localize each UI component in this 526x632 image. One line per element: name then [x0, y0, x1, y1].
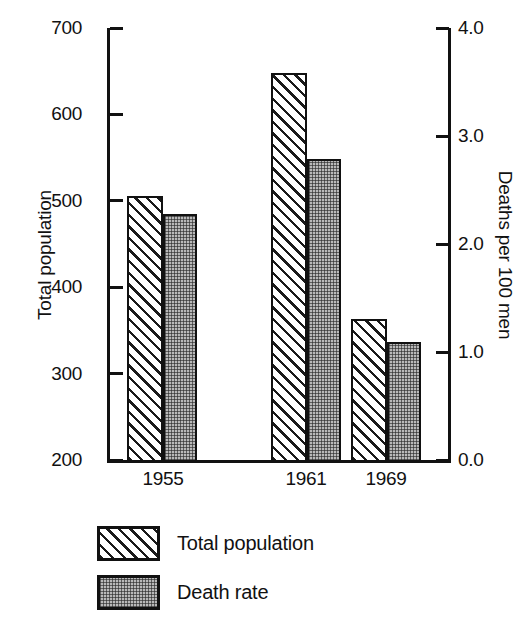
left-tick-label: 300: [51, 364, 82, 383]
bar-1961-death-rate: [307, 159, 341, 462]
right-tick-label: 0.0: [458, 450, 484, 469]
right-tick-label: 4.0: [458, 18, 484, 37]
bar-1969-total-population: [351, 319, 387, 462]
right-tick-label: 2.0: [458, 234, 484, 253]
left-axis-title: Total population: [34, 155, 56, 355]
right-axis-title: Deaths per 100 men: [494, 140, 516, 370]
right-tick-mark: [436, 135, 449, 138]
chart-figure: Total population Deaths per 100 men 2003…: [0, 0, 526, 632]
right-tick-label: 3.0: [458, 126, 484, 145]
bar-1955-total-population: [127, 196, 163, 462]
left-tick-label: 400: [51, 277, 82, 296]
left-tick-label: 500: [51, 191, 82, 210]
right-tick-mark: [436, 27, 449, 30]
right-tick-label: 1.0: [458, 342, 484, 361]
bar-1955-death-rate: [163, 214, 197, 462]
x-axis-label-1961: 1961: [266, 468, 346, 490]
left-tick-label: 200: [51, 450, 82, 469]
left-tick-mark: [110, 372, 123, 375]
bar-1969-death-rate: [387, 342, 421, 462]
right-tick-mark: [436, 351, 449, 354]
legend-label-total-population: Total population: [177, 532, 314, 555]
legend-label-death-rate: Death rate: [177, 581, 268, 604]
left-tick-mark: [110, 113, 123, 116]
left-tick-mark: [110, 286, 123, 289]
right-tick-mark: [436, 243, 449, 246]
bar-1961-total-population: [271, 73, 307, 462]
right-tick-mark: [436, 459, 449, 462]
legend-swatch-death-rate: [97, 575, 160, 610]
x-axis-label-1955: 1955: [123, 468, 203, 490]
x-axis-label-1969: 1969: [346, 468, 426, 490]
left-axis-line: [107, 28, 110, 463]
left-tick-mark: [110, 199, 123, 202]
left-tick-label: 700: [51, 18, 82, 37]
left-tick-mark: [110, 27, 123, 30]
right-axis-line: [448, 28, 451, 463]
left-tick-label: 600: [51, 104, 82, 123]
left-tick-mark: [110, 459, 123, 462]
legend-swatch-total-population: [97, 526, 160, 561]
